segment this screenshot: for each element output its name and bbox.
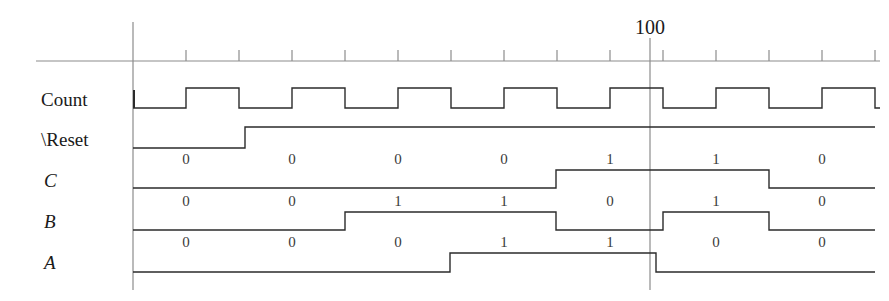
- bit-value: 0: [394, 235, 402, 250]
- bit-value: 0: [394, 152, 402, 167]
- bit-value: 1: [500, 194, 508, 209]
- bit-value: 0: [500, 152, 508, 167]
- bit-value: 0: [288, 194, 296, 209]
- bit-value: 1: [394, 194, 402, 209]
- bit-value: 1: [606, 235, 614, 250]
- bit-value: 0: [182, 152, 190, 167]
- bit-value: 1: [712, 194, 720, 209]
- waveform-a: [133, 253, 875, 272]
- bit-value: 0: [818, 194, 826, 209]
- axis-marker-label: 100: [635, 17, 665, 37]
- bit-value: 0: [606, 194, 614, 209]
- bit-value: 0: [182, 194, 190, 209]
- waveform-canvas: [0, 0, 889, 301]
- bit-value: 1: [500, 235, 508, 250]
- bit-value: 0: [818, 152, 826, 167]
- bit-value: 1: [606, 152, 614, 167]
- waveform-c: [133, 170, 875, 188]
- signal-label-b: B: [44, 212, 56, 231]
- waveform-count: [133, 88, 880, 108]
- waveform-reset: [133, 127, 875, 148]
- bit-value: 0: [818, 235, 826, 250]
- waveform-b: [133, 212, 875, 230]
- signal-label-a: A: [44, 253, 56, 272]
- time-axis-group: [36, 22, 880, 290]
- signal-label-count: Count: [41, 90, 87, 109]
- signal-label-reset: \Reset: [41, 130, 89, 149]
- timing-diagram: 100 Count\ResetCBA 000011000110100001100: [0, 0, 889, 301]
- bit-value: 0: [288, 235, 296, 250]
- bit-value: 0: [712, 235, 720, 250]
- bit-value: 1: [712, 152, 720, 167]
- bit-value: 0: [182, 235, 190, 250]
- signal-label-c: C: [44, 171, 57, 190]
- bit-value: 0: [288, 152, 296, 167]
